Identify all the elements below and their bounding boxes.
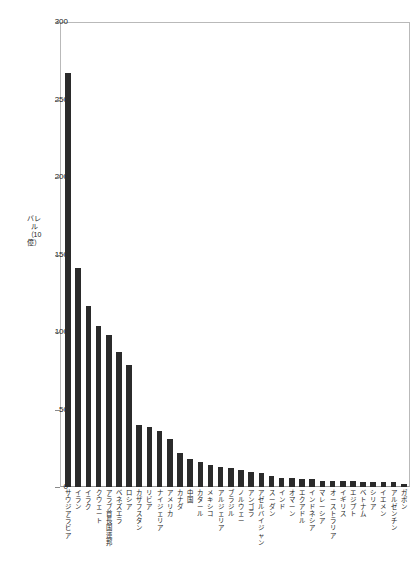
bar <box>330 481 336 487</box>
x-label-slot: シリア <box>368 489 378 510</box>
x-axis-label: アゼルバイジャン <box>257 489 265 546</box>
bar-chart: バレル（10億） 300250200150100500 サウジアラビアイランイラ… <box>0 0 419 570</box>
x-axis-label: スーダン <box>268 489 276 517</box>
x-axis-label: アルゼンチン <box>390 489 398 532</box>
bar-slot <box>195 22 205 487</box>
bar <box>350 481 356 487</box>
x-axis-label: カザフスタン <box>135 489 143 532</box>
bar-slot <box>236 22 246 487</box>
bar <box>65 73 71 487</box>
bar <box>269 476 275 487</box>
bar <box>360 482 366 487</box>
bar-slot <box>155 22 165 487</box>
x-axis-label: アメリカ <box>166 489 174 517</box>
x-axis-label: オーストラリア <box>329 489 337 539</box>
x-axis-label: リビア <box>145 489 153 510</box>
x-label-slot: アゼルバイジャン <box>256 489 266 546</box>
bar <box>391 482 397 487</box>
bar-slot <box>348 22 358 487</box>
bar-slot <box>287 22 297 487</box>
x-label-slot: イギリス <box>338 489 348 517</box>
y-tick-mark <box>55 410 60 411</box>
bar <box>228 468 234 487</box>
bar <box>187 459 193 487</box>
bar <box>208 465 214 487</box>
x-axis-label: ベトナム <box>359 489 367 517</box>
x-label-slot: リビア <box>144 489 154 510</box>
bar <box>116 352 122 487</box>
x-axis-label: アンゴラ <box>247 489 255 517</box>
bar-slot <box>216 22 226 487</box>
bar <box>259 473 265 487</box>
bar-slot <box>63 22 73 487</box>
bar-slot <box>327 22 337 487</box>
bar-slot <box>389 22 399 487</box>
bar <box>370 482 376 487</box>
bar <box>177 453 183 487</box>
bar <box>279 478 285 487</box>
x-label-slot: サウジアラビア <box>63 489 73 539</box>
x-label-slot: マレーシア <box>317 489 327 524</box>
bar-slot <box>73 22 83 487</box>
bar-slot <box>266 22 276 487</box>
x-label-slot: インド <box>277 489 287 510</box>
x-label-slot: アルゼンチン <box>389 489 399 532</box>
bar <box>106 335 112 487</box>
bar-slot <box>297 22 307 487</box>
x-label-slot: ベトナム <box>358 489 368 517</box>
x-axis-label: 中国 <box>186 489 194 503</box>
x-label-slot: ガボン <box>399 489 409 510</box>
bar-slot <box>144 22 154 487</box>
bar-slot <box>165 22 175 487</box>
bar <box>238 470 244 487</box>
bar <box>126 365 132 487</box>
y-tick-mark <box>55 255 60 256</box>
bar-slot <box>399 22 409 487</box>
bar-slot <box>378 22 388 487</box>
x-label-slot: インドネシア <box>307 489 317 532</box>
bar-slot <box>226 22 236 487</box>
x-label-slot: オーストラリア <box>327 489 337 539</box>
x-axis-label: ナイジェリア <box>156 489 164 532</box>
bar <box>147 427 153 487</box>
bar <box>299 479 305 487</box>
x-label-slot: メキシコ <box>205 489 215 517</box>
x-axis-label: サウジアラビア <box>64 489 72 539</box>
bar-slot <box>277 22 287 487</box>
x-label-slot: アンゴラ <box>246 489 256 517</box>
x-axis-label: インドネシア <box>308 489 316 532</box>
x-axis-label: ブラジル <box>227 489 235 517</box>
bar <box>86 306 92 487</box>
x-axis-label: ノルウェー <box>237 489 245 524</box>
bar-slot <box>338 22 348 487</box>
bar-slot <box>246 22 256 487</box>
x-axis-label: クウェート <box>95 489 103 524</box>
bar-slot <box>94 22 104 487</box>
bar-slot <box>104 22 114 487</box>
x-label-slot: ナイジェリア <box>155 489 165 532</box>
x-label-slot: イラク <box>83 489 93 510</box>
bar <box>75 268 81 487</box>
x-label-slot: ノルウェー <box>236 489 246 524</box>
x-label-slot: ロシア <box>124 489 134 510</box>
bar-series <box>61 22 409 487</box>
x-label-slot: クウェート <box>94 489 104 524</box>
bar-slot <box>358 22 368 487</box>
x-label-slot: オマーン <box>287 489 297 517</box>
bar <box>309 479 315 487</box>
bar <box>167 439 173 487</box>
bar-slot <box>124 22 134 487</box>
bar-slot <box>256 22 266 487</box>
x-axis-label: ガボン <box>400 489 408 510</box>
x-axis-labels: サウジアラビアイランイラククウェートアラブ首長国連邦ベネズエラロシアカザフスタン… <box>61 489 409 569</box>
bar <box>340 481 346 487</box>
x-axis-label: イギリス <box>339 489 347 517</box>
bar-slot <box>134 22 144 487</box>
x-axis-label: カタール <box>196 489 204 517</box>
bar <box>198 462 204 487</box>
bar-slot <box>317 22 327 487</box>
y-tick-mark <box>55 487 60 488</box>
x-axis-label: マレーシア <box>318 489 326 524</box>
x-axis-label: ロシア <box>125 489 133 510</box>
x-label-slot: エクアドル <box>297 489 307 524</box>
